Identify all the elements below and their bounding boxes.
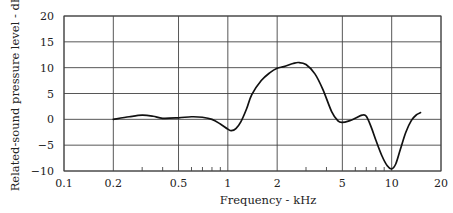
x-tick-label: 0.1 — [55, 177, 73, 190]
response-curve — [113, 62, 420, 169]
y-tick-label: 10 — [40, 62, 54, 75]
y-tick-label: −10 — [31, 165, 54, 178]
x-tick-label: 1 — [224, 177, 231, 190]
x-axis-title: Frequency - kHz — [220, 193, 316, 207]
frequency-response-chart: 0.10.20.51251020 −10−505101520 Frequency… — [0, 0, 453, 213]
y-tick-label: 15 — [40, 36, 54, 49]
y-tick-label: 20 — [40, 10, 54, 23]
y-tick-labels: −10−505101520 — [31, 10, 54, 178]
y-tick-label: 0 — [47, 113, 54, 126]
y-tick-label: 5 — [47, 88, 54, 101]
x-tick-label: 2 — [274, 177, 281, 190]
x-tick-label: 10 — [385, 177, 399, 190]
y-tick-label: −5 — [38, 139, 54, 152]
x-tick-label: 5 — [339, 177, 346, 190]
y-axis-title: Related-sound pressure level - dB — [8, 0, 22, 191]
x-tick-label: 20 — [434, 177, 448, 190]
x-tick-label: 0.2 — [105, 177, 123, 190]
x-tick-labels: 0.10.20.51251020 — [55, 177, 448, 190]
x-tick-label: 0.5 — [170, 177, 188, 190]
